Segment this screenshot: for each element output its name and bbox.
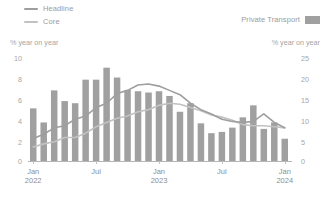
x-tick-label: Jul: [91, 167, 101, 176]
x-tick-label: Jan2023: [151, 167, 168, 186]
bar: [30, 108, 36, 161]
bars-group: [30, 68, 288, 161]
plot-area: [28, 54, 290, 161]
right-tick-5: 5: [301, 139, 323, 146]
x-tickmark: [285, 161, 286, 164]
x-tick-label-month: Jul: [91, 167, 101, 176]
bar: [61, 101, 68, 161]
bar: [271, 122, 278, 161]
bar: [124, 90, 131, 161]
bar: [219, 132, 226, 161]
bar: [229, 128, 236, 161]
bar: [93, 80, 100, 161]
left-tick-0: 0: [0, 158, 22, 165]
bar: [135, 91, 142, 161]
bar: [208, 133, 215, 161]
legend-item-private-transport: Private Transport: [241, 14, 320, 25]
bar: [82, 80, 89, 161]
x-tick-label-year: 2022: [25, 176, 42, 185]
x-tick-label: Jan2022: [25, 167, 42, 186]
left-tick-6: 6: [0, 97, 22, 104]
legend-label-headline: Headline: [43, 4, 73, 13]
x-tickmark: [159, 161, 160, 164]
bar: [198, 123, 205, 161]
x-tick-label-month: Jan: [276, 167, 293, 176]
bar: [40, 122, 47, 161]
x-tick-label-year: 2024: [276, 176, 293, 185]
right-axis-unit-label: % year on year: [272, 38, 320, 47]
legend-label-private-transport: Private Transport: [241, 15, 300, 24]
left-tick-4: 4: [0, 118, 22, 125]
x-tickmark: [222, 161, 223, 164]
left-axis-unit-label: % year on year: [10, 38, 58, 47]
bar: [177, 112, 184, 161]
right-tick-25: 25: [301, 55, 323, 62]
chart-container: Headline Core Private Transport % year o…: [0, 0, 328, 201]
right-tick-0: 0: [301, 158, 323, 165]
left-tick-10: 10: [0, 55, 22, 62]
bar: [72, 103, 79, 161]
legend-right: Private Transport: [241, 14, 320, 25]
left-tick-8: 8: [0, 76, 22, 83]
bar: [145, 93, 152, 161]
x-tick-label-month: Jul: [217, 167, 227, 176]
bar: [166, 96, 173, 161]
x-tick-label-month: Jan: [25, 167, 42, 176]
right-tick-10: 10: [301, 118, 323, 125]
x-tick-label: Jan2024: [276, 167, 293, 186]
right-tick-20: 20: [301, 76, 323, 83]
bar: [282, 139, 289, 161]
bar: [156, 91, 163, 161]
legend-line-marker-headline: [24, 8, 38, 10]
bar: [187, 103, 194, 161]
plot-svg: [28, 54, 290, 161]
legend-swatch-marker-private-transport: [305, 16, 320, 24]
bar: [261, 129, 268, 161]
legend-line-marker-core: [24, 21, 38, 23]
right-tick-15: 15: [301, 97, 323, 104]
x-tickmark: [33, 161, 34, 164]
bar: [250, 105, 257, 161]
legend-item-headline: Headline: [24, 3, 73, 14]
x-tickmark: [96, 161, 97, 164]
legend-left: Headline Core: [24, 3, 73, 27]
x-tick-label: Jul: [217, 167, 227, 176]
legend-label-core: Core: [43, 17, 60, 26]
left-tick-2: 2: [0, 139, 22, 146]
x-tick-label-month: Jan: [151, 167, 168, 176]
bar: [103, 68, 110, 161]
x-tick-label-year: 2023: [151, 176, 168, 185]
legend-item-core: Core: [24, 16, 73, 27]
bar: [51, 90, 58, 161]
x-axis-baseline: [28, 161, 292, 162]
